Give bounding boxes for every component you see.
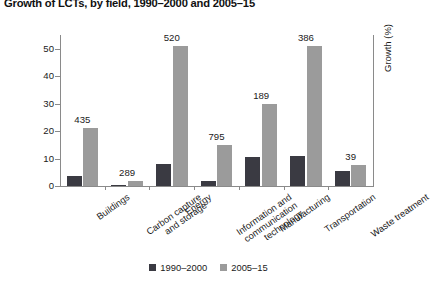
legend-item-1: 2005–15 bbox=[220, 262, 268, 273]
legend-item-0: 1990–2000 bbox=[149, 262, 207, 273]
bar-group bbox=[111, 35, 143, 186]
bar-series-1990-2000 bbox=[111, 185, 126, 186]
growth-value-label: 520 bbox=[147, 32, 197, 43]
growth-value-label: 189 bbox=[236, 90, 286, 101]
x-axis-tick bbox=[328, 186, 329, 190]
bar-series-2005-15 bbox=[173, 46, 188, 186]
y-axis-tick-label: 30 bbox=[30, 98, 54, 109]
bar-series-2005-15 bbox=[307, 46, 322, 186]
y-axis-tick-label: 50 bbox=[30, 43, 54, 54]
growth-value-label: 435 bbox=[57, 114, 107, 125]
y-axis-tick-label: 40 bbox=[30, 70, 54, 81]
growth-value-label: 289 bbox=[102, 167, 152, 178]
x-axis-line bbox=[60, 186, 374, 187]
plot-area: 0102030405043528952079518938639 bbox=[60, 35, 373, 186]
x-axis-tick bbox=[149, 186, 150, 190]
growth-value-label: 39 bbox=[326, 151, 376, 162]
y-axis-tick bbox=[55, 104, 60, 105]
chart-legend: 1990–2000 2005–15 bbox=[0, 262, 417, 273]
y-axis-tick bbox=[55, 186, 60, 187]
chart-title: Growth of LCTs, by field, 1990–2000 and … bbox=[4, 0, 404, 9]
bar-series-1990-2000 bbox=[201, 181, 216, 186]
y-axis-tick bbox=[55, 131, 60, 132]
x-axis-category-label: Buildings bbox=[95, 192, 132, 222]
bar-group bbox=[67, 35, 99, 186]
bar-series-2005-15 bbox=[217, 145, 232, 186]
y-axis-tick-label: 10 bbox=[30, 153, 54, 164]
category-label-line: Waste treatment bbox=[369, 192, 430, 239]
y-axis-tick-label: 20 bbox=[30, 125, 54, 136]
y-axis-tick bbox=[55, 159, 60, 160]
x-axis-tick bbox=[105, 186, 106, 190]
bar-series-1990-2000 bbox=[67, 176, 82, 186]
x-axis-tick bbox=[194, 186, 195, 190]
y-axis-tick-label: 0 bbox=[30, 180, 54, 191]
category-label-line: Buildings bbox=[95, 192, 132, 222]
y-axis-tick bbox=[55, 49, 60, 50]
y-axis-right-line bbox=[373, 35, 374, 187]
bar-series-1990-2000 bbox=[156, 164, 171, 186]
bar-group bbox=[201, 35, 233, 186]
x-axis-tick bbox=[284, 186, 285, 190]
bar-series-1990-2000 bbox=[245, 157, 260, 186]
bar-series-2005-15 bbox=[262, 104, 277, 186]
x-axis-tick bbox=[239, 186, 240, 190]
bar-group bbox=[335, 35, 367, 186]
bar-series-2005-15 bbox=[83, 128, 98, 186]
legend-swatch-icon-1 bbox=[220, 264, 227, 271]
y-axis-right-title: Growth (%) bbox=[382, 24, 393, 72]
legend-label-0: 1990–2000 bbox=[160, 262, 207, 273]
bar-series-2005-15 bbox=[351, 165, 366, 186]
bar-series-1990-2000 bbox=[290, 156, 305, 186]
bar-group bbox=[245, 35, 277, 186]
x-axis-category-label: Waste treatment bbox=[369, 192, 430, 239]
bar-series-1990-2000 bbox=[335, 171, 350, 186]
growth-value-label: 795 bbox=[192, 131, 242, 142]
growth-value-label: 386 bbox=[281, 32, 331, 43]
legend-label-1: 2005–15 bbox=[231, 262, 268, 273]
bar-series-2005-15 bbox=[128, 181, 143, 186]
bar-group bbox=[156, 35, 188, 186]
legend-swatch-icon-0 bbox=[149, 264, 156, 271]
y-axis-tick bbox=[55, 76, 60, 77]
bar-group bbox=[290, 35, 322, 186]
